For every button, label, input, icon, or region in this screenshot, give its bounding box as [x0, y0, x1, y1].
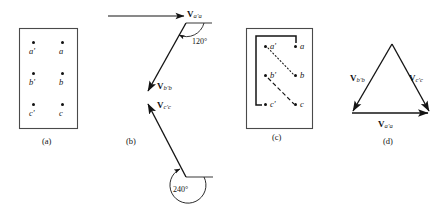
vector-line-cc-panel-b [148, 104, 186, 177]
vector-label-bb-panel-b: Vb'b [157, 82, 172, 92]
point-label-c-panel-c: c [300, 100, 304, 109]
point-marker-bprime-panel-a [32, 72, 35, 75]
point-label-b-panel-a: b [59, 78, 63, 87]
caption-panel-a: (a) [42, 137, 51, 146]
caption-panel-d: (d) [383, 137, 393, 146]
point-label-cprime-panel-a: c' [29, 109, 35, 118]
point-label-cprime-panel-c: c' [270, 100, 276, 109]
point-label-bprime-panel-c: b' [270, 71, 276, 80]
point-marker-a-panel-a [61, 41, 64, 44]
point-label-bprime-panel-a: b' [29, 78, 35, 87]
caption-panel-b: (b) [126, 137, 136, 146]
vector-line-bb-panel-b [148, 23, 186, 91]
caption-panel-c: (c) [272, 133, 281, 142]
figure-linework [0, 0, 437, 205]
point-marker-b-panel-a [61, 72, 64, 75]
point-label-aprime-panel-c: a' [270, 42, 276, 51]
point-label-a-panel-c: a [300, 42, 304, 51]
vector-label-bb-panel-d: Vb'b [350, 74, 365, 84]
point-marker-b-panel-c [294, 74, 297, 77]
point-marker-c-panel-a [61, 103, 64, 106]
vector-label-cc-panel-d: Vc'c [409, 74, 423, 84]
point-marker-cprime-panel-a [32, 103, 35, 106]
point-marker-cprime-panel-c [264, 103, 267, 106]
point-marker-bprime-panel-c [264, 74, 267, 77]
angle-label-240: 240° [173, 186, 188, 194]
point-label-aprime-panel-a: a' [29, 47, 35, 56]
figure-three-phase-voltage-vectors: a' a b' b c' c Va'a Vb'b Vc'c 120° 240° … [0, 0, 437, 205]
point-marker-aprime-panel-c [264, 45, 267, 48]
angle-label-120: 120° [192, 38, 207, 46]
point-label-b-panel-c: b [300, 71, 304, 80]
vector-label-aa-panel-b: Va'a [187, 10, 202, 20]
vector-label-cc-panel-b: Vc'c [157, 101, 171, 111]
point-label-a-panel-a: a [59, 47, 63, 56]
point-label-c-panel-a: c [59, 109, 63, 118]
point-marker-a-panel-c [294, 45, 297, 48]
point-marker-c-panel-c [294, 103, 297, 106]
point-marker-aprime-panel-a [32, 41, 35, 44]
vector-label-aa-panel-d: Va'a [378, 120, 393, 130]
